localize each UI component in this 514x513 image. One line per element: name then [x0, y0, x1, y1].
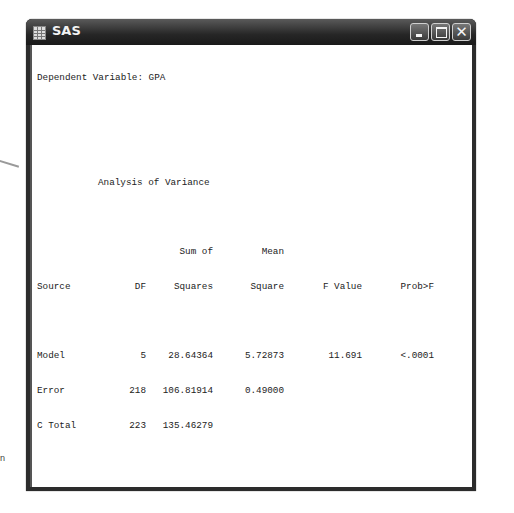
anova-row-model: Model528.643645.7287311.691<.0001: [37, 350, 434, 362]
output-pane[interactable]: Dependent Variable: GPA Analysis of Vari…: [30, 45, 472, 487]
anova-row-ctotal: C Total223135.46279: [37, 420, 434, 432]
anova-header-2: SourceDFSquaresSquareF ValueProb>F: [37, 281, 434, 293]
minimize-button[interactable]: [410, 23, 429, 41]
sas-output-listing: Dependent Variable: GPA Analysis of Vari…: [37, 49, 434, 487]
close-icon: ✕: [453, 24, 470, 40]
anova-title: Analysis of Variance: [37, 177, 434, 189]
dependent-variable-line: Dependent Variable: GPA: [37, 72, 434, 84]
background-line: [0, 160, 19, 168]
sas-output-window: SAS ✕ Dependent Variable: GPA Analysis o…: [26, 19, 476, 491]
window-title: SAS: [52, 23, 81, 38]
sas-app-icon[interactable]: [33, 26, 46, 40]
title-bar[interactable]: SAS ✕: [26, 19, 476, 45]
background-text: n: [0, 453, 5, 463]
close-button[interactable]: ✕: [452, 23, 471, 41]
anova-header-1: Sum ofMean: [37, 246, 434, 258]
anova-row-error: Error218106.819140.49000: [37, 385, 434, 397]
maximize-button[interactable]: [431, 23, 450, 41]
